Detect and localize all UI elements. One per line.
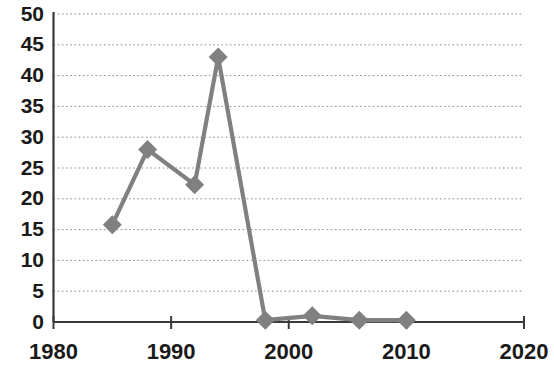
y-axis-tick-label: 5 bbox=[32, 279, 44, 302]
line-chart: 05101520253035404550 1980199020002010202… bbox=[0, 0, 554, 380]
data-series-line bbox=[112, 57, 406, 320]
y-axis-tick-label: 15 bbox=[21, 217, 45, 240]
y-axis-tick-label: 25 bbox=[21, 156, 45, 179]
data-point-marker bbox=[256, 311, 275, 330]
y-axis-tick-label: 35 bbox=[21, 94, 45, 117]
y-axis-tick-label: 20 bbox=[21, 186, 44, 209]
x-axis-tick-label: 1980 bbox=[29, 339, 78, 364]
y-axis-tick-label: 30 bbox=[21, 125, 44, 148]
x-axis-tick-label: 2020 bbox=[500, 339, 549, 364]
data-point-marker bbox=[350, 311, 369, 330]
y-axis-tick-label: 10 bbox=[21, 248, 44, 271]
x-axis-tick-label: 1990 bbox=[147, 339, 196, 364]
y-axis-tick-label: 40 bbox=[21, 63, 44, 86]
x-axis-tick-label: 2010 bbox=[382, 339, 431, 364]
data-point-marker bbox=[397, 311, 416, 330]
gridline-group bbox=[54, 14, 525, 291]
x-axis-tick-label-group: 19801990200020102020 bbox=[29, 339, 548, 364]
data-point-marker bbox=[209, 48, 228, 67]
y-axis-tick-label-group: 05101520253035404550 bbox=[21, 2, 45, 333]
y-axis-tick-label: 50 bbox=[21, 2, 44, 25]
chart-canvas: 05101520253035404550 1980199020002010202… bbox=[0, 0, 554, 380]
y-axis-tick-label: 0 bbox=[32, 310, 44, 333]
y-axis-tick-label: 45 bbox=[21, 32, 45, 55]
x-axis-tick-label: 2000 bbox=[264, 339, 313, 364]
data-point-marker bbox=[103, 215, 122, 234]
